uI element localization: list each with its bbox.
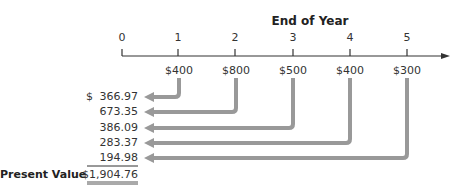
- dollar-sign: $: [86, 90, 93, 103]
- present-value-label: Present Value: [0, 168, 86, 181]
- tick-0: 0: [112, 31, 132, 44]
- pv-row-4: 283.37: [100, 136, 139, 149]
- tick-4: 4: [340, 31, 360, 44]
- present-value-total: $1,904.76: [82, 168, 138, 181]
- cash-flow-1: $400: [154, 64, 204, 77]
- cash-flow-3: $500: [268, 64, 318, 77]
- pv-row-3: 386.09: [100, 121, 139, 134]
- cash-flow-2: $800: [211, 64, 261, 77]
- pv-row-2: 673.35: [100, 105, 139, 118]
- cash-flow-5: $300: [382, 64, 432, 77]
- tick-1: 1: [168, 31, 188, 44]
- pv-row-1: 366.97: [100, 90, 139, 103]
- tick-3: 3: [283, 31, 303, 44]
- timeline-diagram: [0, 0, 470, 194]
- cash-flow-4: $400: [325, 64, 375, 77]
- pv-row-5: 194.98: [100, 151, 139, 164]
- tick-5: 5: [397, 31, 417, 44]
- tick-2: 2: [225, 31, 245, 44]
